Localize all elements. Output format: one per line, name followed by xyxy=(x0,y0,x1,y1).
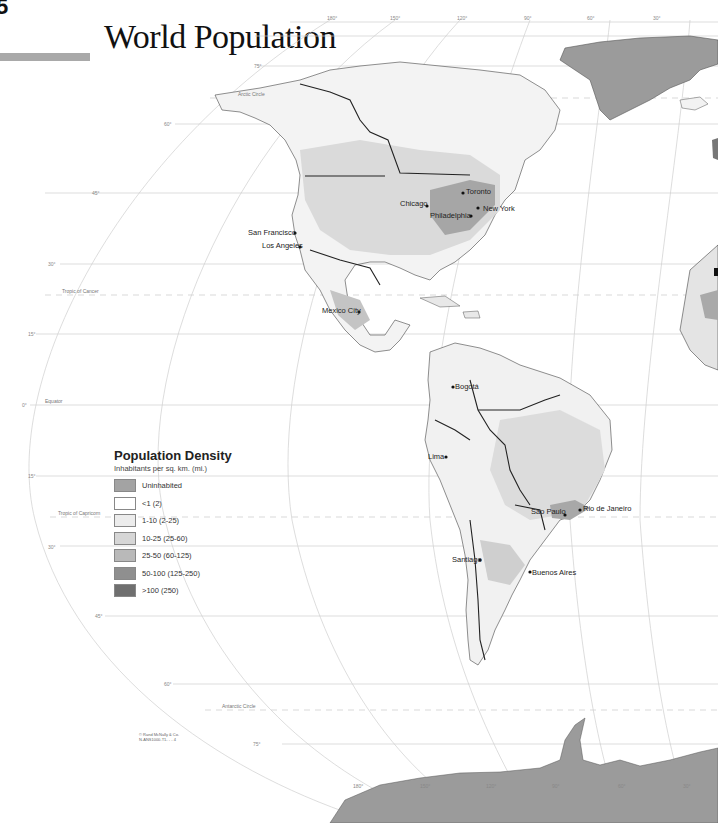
legend-swatch xyxy=(114,532,136,545)
city-label-santiago: Santiago xyxy=(452,555,482,564)
lat-label-30n: 30° xyxy=(48,261,56,267)
population-density-legend: Population Density Inhabitants per sq. k… xyxy=(114,448,254,600)
lat-label-0: 0° xyxy=(22,402,27,408)
lon-label-top-30: 30° xyxy=(653,15,661,21)
city-label-new-york: New York xyxy=(483,204,515,213)
city-label-los-angeles: Los Angeles xyxy=(262,241,303,250)
legend-subtitle: Inhabitants per sq. km. (mi.) xyxy=(114,464,254,473)
legend-item-label: 10-25 (25-60) xyxy=(142,534,187,543)
lat-label-60n: 60° xyxy=(164,121,172,127)
legend-swatch xyxy=(114,584,136,597)
lat-label-45s: 45° xyxy=(95,613,103,619)
lon-label-bottom-180: 180° xyxy=(353,783,363,789)
city-label-bogota: Bogotá xyxy=(455,382,480,391)
legend-item-label: 50-100 (125-250) xyxy=(142,569,200,578)
city-label-chicago: Chicago xyxy=(400,199,428,208)
legend-item-1-10: 1-10 (2-25) xyxy=(114,512,254,530)
antarctic-circle-label: Antarctic Circle xyxy=(222,703,256,709)
lon-label-top-120: 120° xyxy=(457,15,467,21)
city-label-rio-de-janeiro: Rio de Janeiro xyxy=(583,504,631,513)
legend-item-10-25: 10-25 (25-60) xyxy=(114,530,254,548)
credit-line-2: N-ANS1000-T1- - - 4 xyxy=(139,737,179,742)
lon-label-bottom-30: 30° xyxy=(683,783,691,789)
lat-label-75n: 75° xyxy=(254,63,262,69)
legend-swatch xyxy=(114,514,136,527)
lon-label-top-90: 90° xyxy=(524,15,532,21)
tropic-of-cancer-label: Tropic of Cancer xyxy=(62,288,99,294)
lat-label-60s: 60° xyxy=(164,681,172,687)
legend-swatch xyxy=(114,567,136,580)
lon-label-top-180: 180° xyxy=(327,15,337,21)
legend-item-label: 1-10 (2-25) xyxy=(142,516,179,525)
legend-item-lt1: <1 (2) xyxy=(114,495,254,513)
city-label-mexico-city: Mexico City xyxy=(322,306,361,315)
arctic-circle-label: Arctic Circle xyxy=(238,91,265,97)
equator-label: Equator xyxy=(45,398,63,404)
lon-label-bottom-120: 120° xyxy=(486,783,496,789)
hispaniola xyxy=(463,311,480,318)
lon-label-bottom-150: 150° xyxy=(420,783,430,789)
lat-label-15s: 15° xyxy=(28,473,36,479)
legend-swatch xyxy=(114,549,136,562)
map-credit: © Rand McNally & Co. N-ANS1000-T1- - - 4 xyxy=(139,732,179,742)
legend-item-gt100: >100 (250) xyxy=(114,582,254,600)
africa-dark-marker xyxy=(714,268,718,276)
legend-title: Population Density xyxy=(114,448,254,463)
legend-swatch xyxy=(114,479,136,492)
city-label-toronto: Toronto xyxy=(466,187,491,196)
legend-item-25-50: 25-50 (60-125) xyxy=(114,547,254,565)
legend-item-50-100: 50-100 (125-250) xyxy=(114,565,254,583)
lon-label-bottom-90: 90° xyxy=(552,783,560,789)
antarctica xyxy=(330,718,718,823)
city-label-philadelphia: Philadelphia xyxy=(430,211,472,220)
lon-label-top-60: 60° xyxy=(587,15,595,21)
city-label-buenos-aires: Buenos Aires xyxy=(532,568,576,577)
city-label-san-francisco: San Francisco xyxy=(248,228,296,237)
lat-label-15n: 15° xyxy=(28,331,36,337)
legend-item-label: <1 (2) xyxy=(142,499,162,508)
europe-edge xyxy=(712,138,718,160)
city-label-sao-paulo: São Paulo xyxy=(531,507,566,516)
lon-label-bottom-60: 60° xyxy=(618,783,626,789)
city-label-lima: Lima xyxy=(428,452,445,461)
legend-item-label: Uninhabited xyxy=(142,481,182,490)
lon-label-top-150: 150° xyxy=(390,15,400,21)
tropic-of-capricorn-label: Tropic of Capricorn xyxy=(58,510,101,516)
legend-swatch xyxy=(114,497,136,510)
legend-item-uninhabited: Uninhabited xyxy=(114,477,254,495)
lat-label-75s: 75° xyxy=(253,741,261,747)
cuba xyxy=(420,296,460,307)
legend-item-label: >100 (250) xyxy=(142,586,179,595)
legend-item-label: 25-50 (60-125) xyxy=(142,551,192,560)
lat-label-30s: 30° xyxy=(48,544,56,550)
population-map: Toronto Chicago New York Philadelphia Sa… xyxy=(0,0,718,823)
iceland xyxy=(680,97,708,110)
lat-label-45n: 45° xyxy=(92,190,100,196)
